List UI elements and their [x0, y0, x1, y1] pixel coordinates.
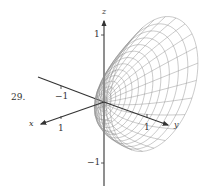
y-axis-negative — [38, 77, 104, 102]
z-tick-label-1: 1 — [94, 30, 100, 39]
mesh-radial-line — [104, 98, 192, 105]
z-axis-label: z — [102, 8, 106, 16]
z-tick-label-neg1: −1 — [87, 158, 100, 167]
x-tick-label-1: 1 — [58, 124, 64, 133]
mesh-radial-line — [99, 102, 123, 144]
y-axis-label: y — [174, 121, 179, 129]
problem-number: 29. — [11, 93, 25, 102]
y-tick-label-1: 1 — [144, 123, 150, 132]
y-axis-positive — [104, 102, 168, 125]
x-axis-label: x — [29, 120, 34, 128]
y-tick-label-neg1: −1 — [55, 92, 68, 101]
paraboloid-plot — [0, 0, 206, 193]
mesh-ring — [95, 58, 145, 135]
mesh-ring — [103, 31, 178, 147]
